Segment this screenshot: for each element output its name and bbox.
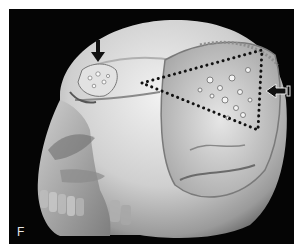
ct-image-frame: F xyxy=(9,9,294,244)
skull-render xyxy=(9,9,294,244)
panel-label: F xyxy=(17,226,24,238)
frontal-lesion xyxy=(78,64,117,96)
